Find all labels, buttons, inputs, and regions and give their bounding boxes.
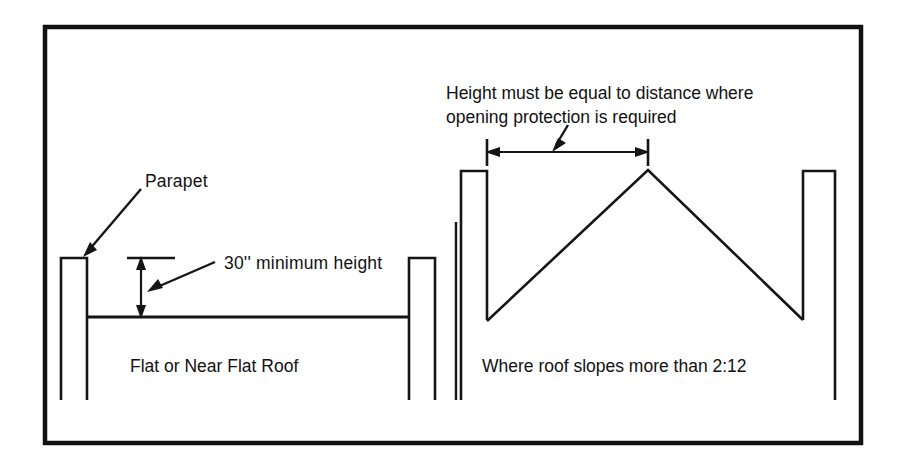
- opening-protection-note-line2: opening protection is required: [446, 107, 677, 127]
- height-label-leader-arrow: [147, 279, 163, 292]
- parapet-leader-line: [89, 189, 141, 250]
- left-panel-caption: Flat or Near Flat Roof: [130, 356, 298, 376]
- note-leader-arrow: [552, 138, 566, 152]
- left-parapet-wall: [61, 258, 87, 400]
- height-dimension-label: 30'' minimum height: [224, 253, 382, 273]
- parapet-label: Parapet: [145, 171, 208, 191]
- right-panel-caption: Where roof slopes more than 2:12: [482, 356, 747, 376]
- diagram-canvas: 30'' minimum height Parapet Flat or Near…: [0, 0, 903, 469]
- right-panel-right-parapet-wall: [803, 171, 835, 400]
- opening-protection-note-line1: Height must be equal to distance where: [446, 83, 753, 103]
- gable-roof-slopes: [487, 170, 803, 321]
- height-label-leader-line: [155, 262, 215, 288]
- left-panel-right-parapet-wall: [409, 258, 435, 400]
- roof-parapet-diagram: 30'' minimum height Parapet Flat or Near…: [0, 0, 903, 469]
